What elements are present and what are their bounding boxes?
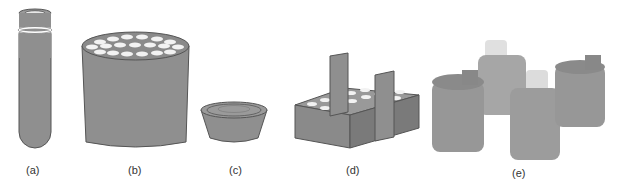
panel-label-a: (a) xyxy=(26,164,39,176)
bucket-adapters-photo xyxy=(432,40,605,160)
panel-label-d: (d) xyxy=(346,164,359,176)
figure xyxy=(0,0,626,188)
panel-label-b: (b) xyxy=(128,164,141,176)
adapter-block-illustration xyxy=(82,32,189,147)
panel-label-c: (c) xyxy=(229,164,242,176)
tube-illustration xyxy=(18,9,52,148)
bowl-adapter-illustration xyxy=(201,102,267,142)
rack-illustration xyxy=(295,53,419,148)
panel-label-e: (e) xyxy=(512,167,525,179)
